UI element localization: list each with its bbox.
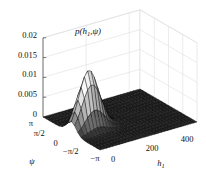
z-tick-label: 0.015 (18, 50, 37, 59)
h1-tick-label: 400 (181, 135, 194, 144)
psi-tick-label: π (29, 119, 33, 128)
z-tick-label: 0.02 (22, 31, 37, 40)
y-axis-title: ψ (29, 157, 34, 166)
plot-title-post: ,ψ) (90, 26, 101, 36)
x-axis-title: h1 (157, 159, 165, 168)
h1-tick-label: 200 (146, 143, 159, 152)
h1-tick-label: 0 (111, 155, 115, 164)
z-tick-label: 0.005 (18, 90, 37, 99)
psi-tick-label: 0 (53, 138, 57, 147)
z-tick-label: 0 (33, 110, 37, 119)
psi-tick-label: π/2 (34, 129, 45, 138)
z-tick-label: 0.01 (22, 70, 37, 79)
plot-title-pre: p(h (75, 26, 87, 36)
x-axis-title-sub: 1 (162, 162, 165, 169)
psi-tick-label: −π (90, 154, 99, 163)
3d-surface-figure: 00.0050.010.0150.02ππ/20−π/2−π0200400 p(… (0, 0, 206, 183)
plot-title: p(h1,ψ) (75, 27, 101, 36)
psi-tick-label: −π/2 (63, 147, 79, 156)
